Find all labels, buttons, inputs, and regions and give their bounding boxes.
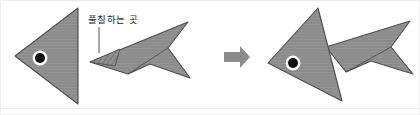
assembled-fish-eye <box>286 56 301 71</box>
process-arrow-icon <box>224 46 250 68</box>
assembled-fish-tail-dart <box>326 21 413 74</box>
glue-area-label: 풀칠하는 곳 <box>88 15 138 25</box>
assembled-fish-body-triangle <box>268 8 342 101</box>
figure-canvas <box>0 0 420 115</box>
fish-tail-dart <box>90 22 190 78</box>
fish-eye <box>33 51 48 66</box>
panel-after-assembly <box>268 8 413 101</box>
origami-instruction-figure: 풀칠하는 곳 <box>0 0 420 115</box>
